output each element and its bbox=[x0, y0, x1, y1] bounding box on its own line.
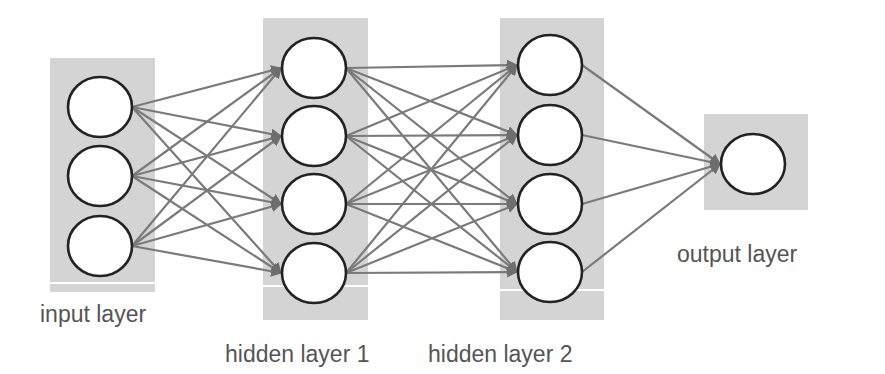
hidden2-neuron-2 bbox=[518, 105, 582, 165]
hidden1-neuron-2 bbox=[282, 106, 346, 166]
output-layer-label: output layer bbox=[677, 243, 797, 266]
hidden2-layer-label: hidden layer 2 bbox=[428, 343, 573, 366]
input-neuron-1 bbox=[68, 77, 132, 137]
connections bbox=[132, 65, 720, 273]
hidden2-neuron-4 bbox=[518, 242, 582, 302]
input-layer-label: input layer bbox=[40, 303, 146, 326]
hidden1-layer-label: hidden layer 1 bbox=[225, 343, 370, 366]
output-neuron-1 bbox=[721, 134, 785, 194]
edge-hidden1-0-to-hidden2-0 bbox=[346, 65, 517, 68]
input-neuron-3 bbox=[68, 216, 132, 276]
hidden2-neuron-3 bbox=[518, 174, 582, 234]
hidden1-neuron-1 bbox=[282, 38, 346, 98]
edge-hidden1-3-to-hidden2-3 bbox=[346, 272, 517, 273]
hidden2-neuron-1 bbox=[518, 35, 582, 95]
hidden1-neuron-3 bbox=[282, 174, 346, 234]
input-neuron-2 bbox=[68, 146, 132, 206]
hidden1-neuron-4 bbox=[282, 243, 346, 303]
